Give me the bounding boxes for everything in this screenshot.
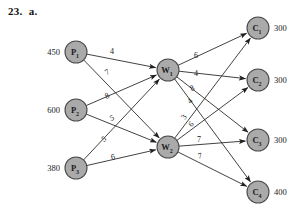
edges-layer <box>84 33 251 186</box>
edge-w2-c2 <box>177 87 248 140</box>
edge-cost-w2-c3: 7 <box>197 135 201 144</box>
demand-value-c2: 300 <box>274 75 287 85</box>
node-c2[interactable]: C2 <box>247 69 269 91</box>
edge-w1-c2 <box>179 71 246 78</box>
edge-cost-p3-w2: 6 <box>110 152 116 162</box>
edge-cost-w1-c1: 6 <box>194 51 198 60</box>
edge-p1-w2 <box>84 60 160 138</box>
edge-p3-w2 <box>87 150 156 166</box>
supply-value-p1: 450 <box>47 47 60 57</box>
edge-p2-w2 <box>86 114 156 142</box>
edge-cost-p2-w2: 5 <box>108 113 115 123</box>
edge-w2-c3 <box>179 141 246 146</box>
node-c4[interactable]: C4 <box>247 181 269 203</box>
edge-cost-w1-c2: 4 <box>194 69 198 78</box>
edge-cost-w2-c4: 7 <box>197 151 203 161</box>
edge-p2-w1 <box>86 75 156 106</box>
node-p3[interactable]: P3 <box>65 157 87 179</box>
edge-p1-w1 <box>87 54 156 67</box>
node-c1[interactable]: C1 <box>247 17 269 39</box>
nodes-layer: P1450P2600P3380W1W2C1300C2300C3300C4400 <box>47 17 287 203</box>
edge-cost-p1-w1: 4 <box>110 47 114 56</box>
supply-value-p3: 380 <box>47 163 60 173</box>
node-c3[interactable]: C3 <box>247 129 269 151</box>
edge-cost-w1-c3: 8 <box>188 83 196 93</box>
demand-value-c1: 300 <box>274 23 287 33</box>
edge-cost-labels-layer: 47855664843677 <box>100 47 203 162</box>
demand-value-c3: 300 <box>274 135 287 145</box>
edge-w2-c4 <box>178 152 247 186</box>
node-w2[interactable]: W2 <box>157 136 179 158</box>
node-p2[interactable]: P2 <box>65 99 87 121</box>
edge-w1-c1 <box>178 33 247 65</box>
node-w1[interactable]: W1 <box>157 59 179 81</box>
edge-p3-w1 <box>84 79 160 160</box>
demand-value-c4: 400 <box>274 187 287 197</box>
node-p1[interactable]: P1 <box>65 41 87 63</box>
edge-cost-p3-w1: 5 <box>100 134 109 144</box>
edge-cost-p2-w1: 8 <box>103 91 110 101</box>
edge-cost-p1-w2: 7 <box>103 67 111 77</box>
supply-value-p2: 600 <box>47 105 60 115</box>
network-diagram: P1450P2600P3380W1W2C1300C2300C3300C4400 … <box>0 0 307 217</box>
diagram-page: 23. a. P1450P2600P3380W1W2C1300C2300C330… <box>0 0 307 217</box>
